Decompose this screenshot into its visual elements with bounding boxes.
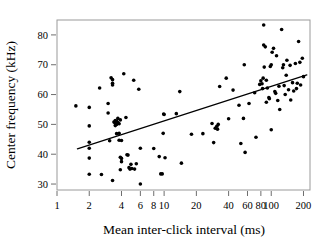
data-point [280, 28, 284, 32]
data-point [87, 140, 91, 144]
data-point [160, 172, 164, 176]
y-tick-label: 50 [38, 119, 49, 130]
data-point [152, 147, 156, 151]
data-point [237, 104, 241, 108]
data-point [243, 151, 247, 155]
x-tick-label: 10 [159, 200, 170, 211]
data-point [275, 54, 279, 58]
data-point [120, 139, 124, 143]
data-point [254, 135, 258, 139]
x-tick-label: 2 [87, 200, 92, 211]
y-axis-ticks: 304050607080 [38, 30, 57, 190]
y-tick-label: 80 [38, 30, 49, 41]
y-tick-label: 30 [38, 179, 49, 190]
data-point [126, 153, 130, 157]
y-axis-label: Center frequency (kHz) [3, 41, 18, 169]
data-point [269, 63, 273, 67]
data-point [295, 87, 299, 91]
data-point [272, 47, 276, 51]
data-point [87, 124, 91, 128]
data-point [242, 117, 246, 121]
data-point [161, 132, 165, 136]
data-point [201, 132, 205, 136]
data-point [119, 118, 123, 122]
data-point [111, 78, 115, 82]
data-point [180, 161, 184, 165]
data-point [122, 72, 126, 76]
x-axis-ticks: 124681020406080100200 [54, 191, 311, 211]
data-point [175, 112, 179, 116]
data-point [139, 182, 143, 186]
data-point [239, 142, 243, 146]
x-tick-label: 100 [263, 200, 279, 211]
data-point [129, 163, 133, 167]
data-point [216, 127, 220, 131]
data-point [295, 81, 299, 85]
data-point [120, 160, 124, 164]
data-point [139, 146, 143, 150]
data-point [111, 179, 115, 183]
data-point [297, 40, 301, 44]
data-point [301, 56, 305, 60]
data-point [291, 81, 295, 85]
x-tick-label: 6 [138, 200, 143, 211]
x-tick-label: 40 [223, 200, 234, 211]
data-point [289, 98, 293, 102]
data-point [100, 173, 104, 177]
data-point [133, 167, 137, 171]
data-point [270, 50, 274, 54]
y-tick-label: 40 [38, 149, 49, 160]
data-point [268, 97, 272, 101]
x-tick-label: 200 [296, 200, 312, 211]
data-point [106, 111, 110, 115]
data-point [278, 108, 282, 112]
figure: 124681020406080100200 304050607080 Mean … [0, 0, 327, 252]
data-point [287, 88, 291, 92]
plot-frame [57, 20, 310, 190]
x-tick-label: 1 [54, 200, 59, 211]
data-point [87, 146, 91, 150]
y-tick-label: 60 [38, 89, 49, 100]
data-point [210, 122, 214, 126]
data-point [231, 88, 235, 92]
x-tick-label: 4 [119, 200, 125, 211]
x-axis-label: Mean inter-click interval (ms) [103, 222, 265, 237]
x-tick-label: 20 [191, 200, 202, 211]
data-point [227, 117, 231, 121]
data-point [264, 45, 268, 49]
data-point [132, 78, 136, 82]
data-point [292, 89, 296, 93]
data-point [288, 64, 292, 68]
data-point [277, 84, 281, 88]
data-point [262, 23, 266, 27]
data-point [262, 65, 266, 69]
data-point [216, 123, 220, 127]
data-point [247, 102, 251, 106]
data-point [120, 157, 124, 161]
data-point [282, 84, 286, 88]
data-point [87, 106, 91, 110]
data-point [87, 172, 91, 176]
data-point [137, 87, 141, 91]
data-point [106, 102, 110, 106]
data-point [87, 156, 91, 160]
x-tick-label: 8 [151, 200, 156, 211]
data-point [108, 139, 112, 143]
data-point [119, 168, 123, 172]
y-tick-label: 70 [38, 59, 49, 70]
data-point [265, 78, 269, 82]
x-tick-label: 60 [242, 200, 253, 211]
data-point [285, 58, 289, 62]
data-point [242, 63, 246, 67]
data-point [224, 76, 228, 80]
data-point [117, 122, 121, 126]
scatter-plot: 124681020406080100200 304050607080 Mean … [0, 0, 327, 252]
data-point [162, 113, 166, 117]
data-point [190, 132, 194, 136]
data-point [74, 104, 78, 108]
data-point [294, 62, 298, 66]
data-point [299, 83, 303, 87]
data-point [163, 156, 167, 160]
data-point [111, 83, 115, 87]
data-point [298, 61, 302, 65]
